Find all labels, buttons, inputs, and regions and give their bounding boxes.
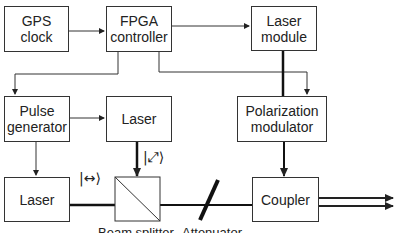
- diagonal-state-label: |⤢⟩: [143, 149, 164, 166]
- laser-reference-label: Laser: [19, 192, 54, 208]
- pulse-generator-block: Pulse generator: [4, 96, 70, 142]
- laser-reference-block: Laser: [4, 177, 70, 222]
- arrow-fpga-to-polarization-modulator: [159, 51, 307, 94]
- attenuator-icon: [200, 180, 218, 220]
- coupler-block: Coupler: [252, 177, 319, 222]
- horizontal-state-label: |↔⟩: [79, 170, 101, 186]
- polarization-modulator-block: Polarization modulator: [237, 96, 327, 142]
- pulse-generator-label: Pulse generator: [7, 103, 67, 135]
- gps-clock-label: GPS clock: [5, 13, 68, 45]
- arrow-fpga-to-pulse-generator: [15, 51, 118, 94]
- laser-module-label: Laser module: [258, 13, 310, 45]
- attenuator-label: Attenuator: [182, 225, 242, 233]
- beam-splitter-label: Beam splitter: [98, 225, 174, 233]
- gps-clock-block: GPS clock: [4, 6, 69, 52]
- coupler-label: Coupler: [261, 192, 310, 208]
- laser-signal-label: Laser: [121, 111, 156, 127]
- laser-signal-block: Laser: [106, 96, 172, 142]
- fpga-controller-block: FPGA controller: [106, 6, 172, 52]
- polarization-modulator-label: Polarization modulator: [238, 103, 326, 135]
- fpga-controller-label: FPGA controller: [110, 13, 168, 45]
- laser-module-block: Laser module: [251, 6, 317, 51]
